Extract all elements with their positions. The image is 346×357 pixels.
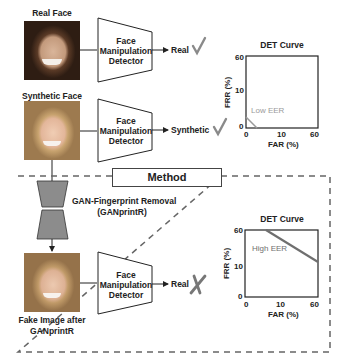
real-face-label: Real Face	[24, 8, 80, 18]
gan-label-line: (GANprintR)	[72, 207, 172, 218]
method-title: Method	[112, 168, 222, 187]
fake-image-label-line: Fake Image after	[10, 315, 94, 326]
y-tick-0: 0	[239, 122, 243, 131]
real-face-image	[24, 21, 80, 80]
fake-image-label-line: GANprintR	[10, 326, 94, 337]
detector-label-line: Face	[98, 36, 154, 46]
det-chart-2-ylabel: FRR (%)	[222, 248, 231, 279]
fake-image-label: Fake Image after GANprintR	[10, 315, 94, 337]
synthetic-face-image	[24, 101, 80, 160]
detector-label-line: Manipulation	[98, 126, 154, 136]
smile	[42, 59, 62, 65]
det-chart-1-plot-area	[246, 56, 318, 128]
det-chart-2-annotation: High EER	[252, 244, 287, 253]
detector-label-line: Detector	[98, 136, 154, 146]
detector-label-line: Detector	[98, 56, 154, 66]
detector-label-line: Manipulation	[98, 46, 154, 56]
detector-label: Face Manipulation Detector	[98, 36, 154, 66]
output-label-real: Real	[171, 279, 189, 289]
check-icon	[193, 38, 205, 53]
synthetic-face-label: Synthetic Face	[10, 91, 94, 101]
y-tick-10: 10	[234, 262, 243, 271]
detector-label-line: Face	[98, 116, 154, 126]
detector-label-line: Manipulation	[98, 280, 154, 290]
y-tick-60: 60	[235, 53, 244, 62]
fake-face-image	[24, 253, 80, 312]
output-label-real: Real	[171, 45, 189, 55]
y-tick-60: 60	[234, 226, 243, 235]
detector-label: Face Manipulation Detector	[98, 116, 154, 146]
det-chart-1-xlabel: FAR (%)	[268, 140, 299, 149]
gan-label-line: GAN-Fingerprint Removal	[72, 196, 172, 207]
smile	[43, 141, 61, 146]
detector-label: Face Manipulation Detector	[98, 270, 154, 300]
det-chart-1-title: DET Curve	[246, 40, 318, 50]
x-tick-10: 10	[277, 130, 286, 139]
gan-encoder-shape	[37, 181, 68, 207]
gan-decoder-shape	[37, 210, 68, 239]
x-tick-0: 0	[244, 130, 248, 139]
det-chart-1-ylabel: FRR (%)	[223, 77, 232, 108]
x-tick-0: 0	[244, 300, 248, 309]
check-icon	[214, 119, 226, 134]
x-tick-60: 60	[310, 300, 319, 309]
det-chart-1-annotation: Low EER	[251, 106, 284, 115]
detector-label-line: Detector	[98, 290, 154, 300]
det-chart-2-xlabel: FAR (%)	[268, 310, 299, 319]
y-tick-0: 0	[238, 292, 242, 301]
output-label-synthetic: Synthetic	[171, 125, 209, 135]
x-tick-10: 10	[276, 300, 285, 309]
detector-label-line: Face	[98, 270, 154, 280]
y-tick-10: 10	[235, 86, 244, 95]
gan-fingerprint-removal-label: GAN-Fingerprint Removal (GANprintR)	[72, 196, 172, 218]
smile	[43, 293, 61, 298]
x-tick-60: 60	[310, 130, 319, 139]
cross-icon	[191, 276, 205, 293]
det-chart-2-title: DET Curve	[246, 214, 318, 224]
